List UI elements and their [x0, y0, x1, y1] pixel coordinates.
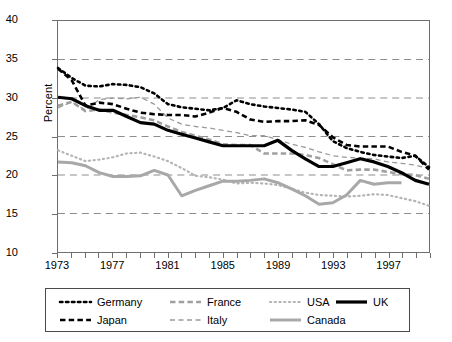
x-tick-mark — [264, 253, 265, 258]
legend-swatch-uk-icon — [336, 296, 367, 308]
legend-label: Japan — [97, 314, 127, 326]
y-tick-label: 10 — [0, 247, 18, 258]
y-tick-label: 30 — [0, 92, 18, 103]
y-tick-label: 35 — [0, 53, 18, 64]
legend-item-usa[interactable]: USA — [270, 293, 330, 310]
x-tick-mark — [347, 253, 348, 258]
series-line-france — [58, 102, 429, 179]
legend-label: Italy — [207, 314, 227, 326]
y-tick-label: 20 — [0, 169, 18, 180]
x-tick-mark — [126, 253, 127, 258]
x-tick-mark — [250, 253, 251, 258]
legend-item-uk[interactable]: UK — [336, 293, 388, 310]
y-tick-label: 25 — [0, 131, 18, 142]
legend-item-france[interactable]: France — [170, 293, 241, 310]
series-line-germany — [58, 68, 429, 167]
series-line-canada — [58, 162, 402, 204]
x-tick-mark — [112, 253, 113, 258]
x-tick-mark — [154, 253, 155, 258]
legend-swatch-usa-icon — [270, 296, 301, 308]
legend-item-japan[interactable]: Japan — [60, 311, 127, 328]
legend-label: France — [207, 296, 241, 308]
x-tick-mark — [430, 253, 431, 258]
legend-swatch-japan-icon — [60, 314, 91, 326]
series-line-uk — [58, 97, 429, 184]
legend-label: UK — [373, 296, 388, 308]
x-tick-mark — [389, 253, 390, 258]
legend-label: Canada — [307, 314, 346, 326]
x-tick-mark — [402, 253, 403, 258]
series-line-usa — [58, 150, 429, 205]
legend-swatch-canada-icon — [270, 314, 301, 326]
x-tick-mark — [168, 253, 169, 258]
x-tick-mark — [181, 253, 182, 258]
legend-item-germany[interactable]: Germany — [60, 293, 142, 310]
x-tick-label: 1985 — [201, 259, 245, 271]
x-tick-mark — [333, 253, 334, 258]
chart-screenshot: Percent 10152025303540197319771981198519… — [0, 0, 452, 342]
x-tick-mark — [209, 253, 210, 258]
legend-item-italy[interactable]: Italy — [170, 311, 227, 328]
x-tick-mark — [319, 253, 320, 258]
x-tick-mark — [223, 253, 224, 258]
x-tick-mark — [140, 253, 141, 258]
x-tick-mark — [278, 253, 279, 258]
legend-label: USA — [307, 296, 330, 308]
chart-legend: GermanyFranceUSAUKJapanItalyCanada — [45, 288, 410, 332]
y-tick-label: 15 — [0, 208, 18, 219]
legend-swatch-italy-icon — [170, 314, 201, 326]
x-tick-label: 1977 — [90, 259, 134, 271]
x-tick-label: 1989 — [256, 259, 300, 271]
x-tick-mark — [375, 253, 376, 258]
legend-swatch-france-icon — [170, 296, 201, 308]
x-tick-mark — [416, 253, 417, 258]
x-tick-mark — [237, 253, 238, 258]
plot-area — [57, 20, 430, 253]
x-tick-mark — [71, 253, 72, 258]
x-tick-label: 1997 — [367, 259, 411, 271]
x-tick-mark — [57, 253, 58, 258]
legend-label: Germany — [97, 296, 142, 308]
x-tick-mark — [361, 253, 362, 258]
x-tick-mark — [292, 253, 293, 258]
legend-item-canada[interactable]: Canada — [270, 311, 346, 328]
x-tick-mark — [98, 253, 99, 258]
x-tick-label: 1993 — [311, 259, 355, 271]
x-tick-mark — [85, 253, 86, 258]
x-tick-mark — [195, 253, 196, 258]
x-tick-mark — [306, 253, 307, 258]
legend-swatch-germany-icon — [60, 296, 91, 308]
x-tick-label: 1981 — [146, 259, 190, 271]
x-tick-label: 1973 — [35, 259, 79, 271]
y-tick-label: 40 — [0, 14, 18, 25]
data-series-layer — [58, 21, 429, 252]
line-chart-figure: Percent 10152025303540197319771981198519… — [0, 0, 452, 280]
y-axis-label: Percent — [42, 68, 56, 138]
